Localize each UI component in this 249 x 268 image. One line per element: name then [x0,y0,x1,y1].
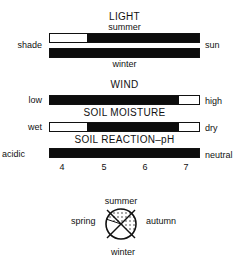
soil-ph-bar [49,148,200,158]
light-title: LIGHT [0,11,249,22]
bar-segment-on [50,149,199,157]
ph-tick-4: 4 [52,162,72,172]
bar-segment-on [87,123,179,131]
ph-tick-7: 7 [176,162,196,172]
light-shade-label: shade [0,40,42,50]
bar-segment-on [50,96,179,104]
bar-segment-off [50,123,87,131]
ph-tick-6: 6 [135,162,155,172]
light-winter-label: winter [0,59,249,69]
soil-moisture-wet-label: wet [0,122,42,132]
wind-bar [49,95,200,105]
light-sun-label: sun [205,40,220,50]
bar-segment-on [87,34,199,42]
bar-segment-on [50,49,199,57]
wind-high-label: high [205,96,222,106]
bar-segment-off [179,123,199,131]
light-summer-bar [49,33,200,43]
soil-moisture-dry-label: dry [205,123,218,133]
soil-ph-neutral-label: neutral [205,150,233,160]
bar-segment-off [50,34,87,42]
soil-ph-title: SOIL REACTION–pH [0,134,249,145]
soil-moisture-title: SOIL MOISTURE [0,107,249,118]
soil-ph-acidic-label: acidic [2,149,25,159]
bar-segment-off [179,96,199,104]
wind-title: WIND [0,79,249,90]
season-spring-label: spring [71,216,96,226]
season-autumn-label: autumn [146,216,176,226]
light-winter-bar [49,48,200,58]
season-winter-label: winter [106,247,140,257]
soil-moisture-bar [49,122,200,132]
light-summer-label: summer [0,22,249,32]
season-dial-icon [100,203,142,245]
wind-low-label: low [0,95,42,105]
ph-tick-5: 5 [94,162,114,172]
